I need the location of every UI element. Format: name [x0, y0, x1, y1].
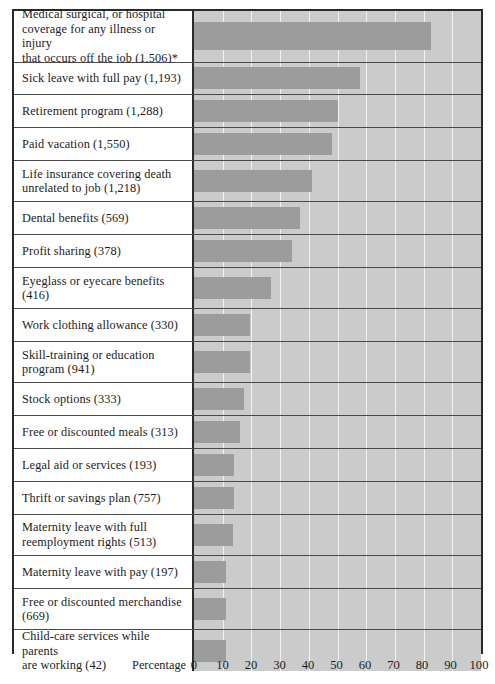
row-label: Skill-training or educationprogram (941): [14, 342, 194, 382]
gridline: [395, 449, 396, 481]
gridline: [309, 202, 310, 234]
gridline: [424, 515, 425, 555]
row-label-line: Maternity leave with full: [22, 520, 156, 535]
gridline: [366, 589, 367, 629]
row-label: Maternity leave with fullreemployment ri…: [14, 515, 194, 555]
row-label: Paid vacation (1,550): [14, 128, 194, 160]
gridlines: [194, 589, 481, 629]
row-plot-area: [194, 482, 481, 514]
x-axis-tick: 100: [470, 658, 489, 673]
gridline: [280, 556, 281, 588]
gridline: [309, 556, 310, 588]
chart-row: Maternity leave with pay (197): [14, 556, 481, 589]
x-axis-tick: 80: [416, 658, 429, 673]
gridline: [309, 416, 310, 448]
gridline: [366, 161, 367, 201]
gridline: [251, 556, 252, 588]
gridline: [395, 416, 396, 448]
row-label-line: Free or discounted meals (313): [22, 425, 178, 440]
gridline: [395, 515, 396, 555]
gridline: [280, 268, 281, 308]
gridline: [280, 309, 281, 341]
chart-row: Sick leave with full pay (1,193): [14, 63, 481, 96]
bar: [194, 524, 233, 546]
gridline: [366, 556, 367, 588]
row-label: Thrift or savings plan (757): [14, 482, 194, 514]
gridline: [424, 235, 425, 267]
gridline: [395, 202, 396, 234]
row-label-line: Sick leave with full pay (1,193): [22, 71, 181, 86]
chart-row: Skill-training or educationprogram (941): [14, 342, 481, 383]
gridline: [424, 383, 425, 415]
gridline: [251, 383, 252, 415]
gridline: [366, 515, 367, 555]
bar: [194, 454, 234, 476]
gridline: [280, 416, 281, 448]
chart-table-frame: Medical surgical, or hospitalcoverage fo…: [12, 9, 483, 654]
x-axis-caption: Percentage: [132, 658, 186, 673]
row-label-line: Work clothing allowance (330): [22, 318, 178, 333]
gridline: [309, 449, 310, 481]
row-plot-area: [194, 235, 481, 267]
x-axis-tick: 10: [216, 658, 229, 673]
gridline: [338, 268, 339, 308]
gridline: [338, 482, 339, 514]
gridline: [424, 309, 425, 341]
gridline: [424, 268, 425, 308]
gridline: [251, 309, 252, 341]
row-label: Life insurance covering deathunrelated t…: [14, 161, 194, 201]
gridline: [280, 482, 281, 514]
gridline: [452, 63, 453, 95]
gridline: [452, 449, 453, 481]
gridline: [452, 416, 453, 448]
gridline: [338, 128, 339, 160]
gridline: [395, 482, 396, 514]
x-axis: Percentage 0102030405060708090100: [12, 654, 483, 680]
gridline: [395, 589, 396, 629]
chart-row: Legal aid or services (193): [14, 449, 481, 482]
gridline: [452, 128, 453, 160]
gridline: [338, 342, 339, 382]
row-label-line: Profit sharing (378): [22, 244, 121, 259]
gridline: [395, 235, 396, 267]
row-label-line: Stock options (333): [22, 392, 121, 407]
row-label: Legal aid or services (193): [14, 449, 194, 481]
gridline: [424, 128, 425, 160]
gridline: [452, 515, 453, 555]
bar: [194, 561, 226, 583]
gridline: [251, 416, 252, 448]
chart-row: Paid vacation (1,550): [14, 128, 481, 161]
row-label-line: Skill-training or education: [22, 348, 154, 363]
x-axis-tick: 50: [330, 658, 343, 673]
gridline: [280, 515, 281, 555]
gridline: [452, 161, 453, 201]
gridline: [338, 589, 339, 629]
row-label-line: Dental benefits (569): [22, 211, 129, 226]
row-label: Medical surgical, or hospitalcoverage fo…: [14, 11, 194, 62]
gridline: [366, 95, 367, 127]
gridline: [366, 202, 367, 234]
gridline: [424, 95, 425, 127]
gridline: [309, 589, 310, 629]
row-label-line: Maternity leave with pay (197): [22, 565, 178, 580]
gridline: [366, 63, 367, 95]
gridline: [366, 449, 367, 481]
gridline: [424, 449, 425, 481]
row-plot-area: [194, 383, 481, 415]
row-label-line: Life insurance covering death: [22, 167, 171, 182]
bar: [194, 314, 250, 336]
row-label-line: (669): [22, 609, 182, 624]
gridline: [338, 515, 339, 555]
row-label: Eyeglass or eyecare benefits(416): [14, 268, 194, 308]
gridline: [280, 383, 281, 415]
row-label-line: Free or discounted merchandise: [22, 595, 182, 610]
gridline: [338, 309, 339, 341]
row-label-line: coverage for any illness or injury: [22, 22, 185, 51]
row-label: Sick leave with full pay (1,193): [14, 63, 194, 95]
gridline: [366, 416, 367, 448]
employee-benefits-bar-chart: Medical surgical, or hospitalcoverage fo…: [0, 0, 495, 684]
gridline: [424, 342, 425, 382]
row-label-line: Medical surgical, or hospital: [22, 7, 185, 22]
x-axis-tick: 40: [302, 658, 315, 673]
row-label-line: Eyeglass or eyecare benefits: [22, 274, 164, 289]
